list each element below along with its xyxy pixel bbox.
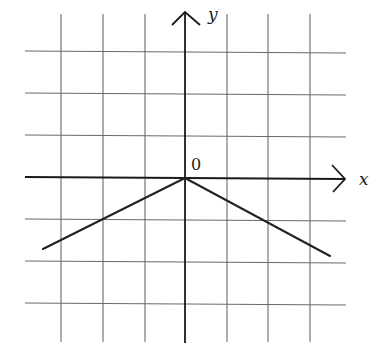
function-graph <box>43 178 330 256</box>
y-axis-label: y <box>207 4 218 24</box>
origin-label: 0 <box>191 155 201 174</box>
coordinate-plane: x y 0 <box>0 0 376 355</box>
x-axis-label: x <box>359 169 369 189</box>
y-axis-arrow-icon <box>172 12 200 25</box>
right-ray <box>185 178 330 256</box>
left-ray <box>43 178 185 249</box>
